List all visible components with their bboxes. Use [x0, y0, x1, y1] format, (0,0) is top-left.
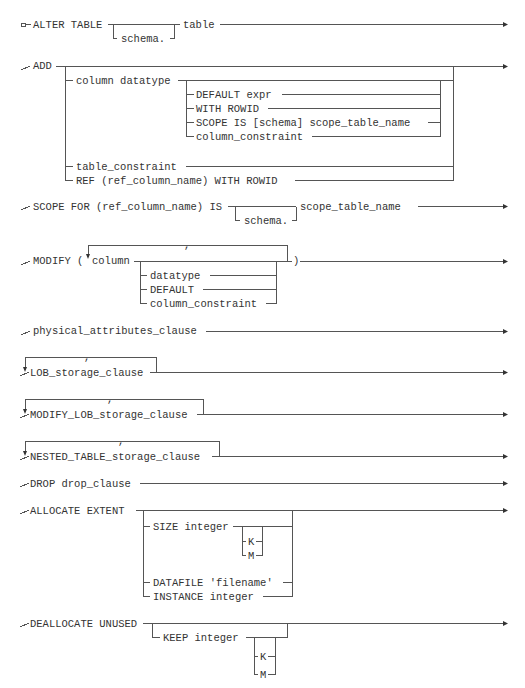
option-column-constraint: column_constraint: [196, 131, 303, 143]
arrow-end-icon: [503, 22, 508, 27]
keyword-scope-for: SCOPE FOR (ref_column_name) IS: [33, 201, 222, 213]
option-datatype: datatype: [150, 270, 200, 282]
unit-k: K: [248, 536, 255, 548]
option-column-constraint: column_constraint: [150, 298, 257, 310]
column: column: [92, 255, 130, 267]
instance-integer: INSTANCE integer: [153, 591, 254, 603]
option-default: DEFAULT: [150, 284, 194, 296]
keyword-deallocate-unused: DEALLOCATE UNUSED: [30, 618, 137, 630]
option-with-rowid: WITH ROWID: [196, 103, 259, 115]
start-marker-icon: [21, 23, 25, 26]
separator-comma: ,: [107, 393, 113, 405]
row-scope-for: SCOPE FOR (ref_column_name) IS schema. s…: [21, 201, 508, 227]
keyword-add: ADD: [33, 60, 52, 72]
arrow-end-icon: [503, 481, 508, 486]
separator-comma: ,: [84, 351, 90, 363]
optional-schema: schema.: [121, 33, 165, 45]
separator-comma: ,: [184, 239, 190, 251]
column-datatype: column datatype: [76, 75, 171, 87]
arrow-end-icon: [503, 329, 508, 334]
datafile-filename: DATAFILE 'filename': [153, 577, 273, 589]
keyword-allocate-extent: ALLOCATE EXTENT: [30, 505, 125, 517]
arrow-end-icon: [503, 204, 508, 209]
row-modify-lob-storage: , MODIFY_LOB_storage_clause: [20, 393, 508, 421]
row-modify: MODIFY ( , column datatype DEFAULT colum…: [21, 239, 508, 310]
table-name: table: [183, 19, 215, 31]
row-add: ADD column datatype DEFAULT expr WITH RO…: [21, 60, 508, 187]
scope-table-name: scope_table_name: [300, 201, 401, 213]
row-lob-storage: , LOB_storage_clause: [20, 351, 508, 379]
unit-m: M: [260, 669, 266, 681]
row-alter-table: ALTER TABLE schema. table: [21, 19, 508, 45]
keyword-nested-table-storage-clause: NESTED_TABLE_storage_clause: [30, 451, 200, 463]
row-deallocate-unused: DEALLOCATE UNUSED KEEP integer K M: [20, 618, 508, 681]
separator-comma: ,: [118, 435, 124, 447]
option-default-expr: DEFAULT expr: [196, 89, 272, 101]
loop-arrow-icon: [86, 254, 90, 259]
row-allocate-extent: ALLOCATE EXTENT SIZE integer K M DATAFIL…: [20, 505, 508, 603]
keyword-lob-storage-clause: LOB_storage_clause: [30, 367, 143, 379]
syntax-diagram: ALTER TABLE schema. table ADD column dat…: [0, 0, 525, 688]
arrow-end-icon: [503, 412, 508, 417]
option-scope-is: SCOPE IS [schema] scope_table_name: [196, 117, 410, 129]
loop-arrow-icon: [23, 451, 27, 456]
table-constraint: table_constraint: [76, 161, 177, 173]
keyword-physical-attributes-clause: physical_attributes_clause: [33, 325, 197, 337]
arrow-end-icon: [503, 64, 508, 69]
keyword-modify: MODIFY (: [33, 255, 83, 267]
ref-with-rowid: REF (ref_column_name) WITH ROWID: [76, 175, 278, 187]
arrow-end-icon: [503, 508, 508, 513]
arrow-end-icon: [503, 259, 508, 264]
row-drop: DROP drop_clause: [20, 478, 508, 490]
size-integer: SIZE integer: [153, 521, 229, 533]
loop-arrow-icon: [23, 367, 27, 372]
arrow-end-icon: [503, 621, 508, 626]
loop-arrow-icon: [23, 409, 27, 414]
keyword-modify-lob-storage-clause: MODIFY_LOB_storage_clause: [30, 409, 188, 421]
unit-m: M: [248, 550, 254, 562]
keep-integer: KEEP integer: [163, 632, 239, 644]
arrow-end-icon: [503, 370, 508, 375]
keyword-alter-table: ALTER TABLE: [33, 19, 102, 31]
keyword-drop-clause: DROP drop_clause: [30, 478, 131, 490]
unit-k: K: [260, 651, 267, 663]
arrow-end-icon: [503, 454, 508, 459]
row-nested-table-storage: , NESTED_TABLE_storage_clause: [20, 435, 508, 463]
row-physical-attributes: physical_attributes_clause: [21, 325, 508, 337]
optional-schema: schema.: [244, 215, 288, 227]
close-paren: ): [293, 255, 299, 267]
